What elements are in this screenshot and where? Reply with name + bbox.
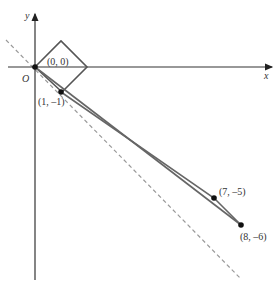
label-0-0: (0, 0) [47,56,69,68]
point-1-1 [58,89,64,95]
dashed-line [6,40,241,279]
label-8-6: (8, –6) [240,231,267,243]
label-7-5: (7, –5) [219,186,246,198]
point-7-5 [211,195,217,201]
x-axis-label: x [263,70,269,81]
label-1-1: (1, –1) [38,96,65,108]
point-8-6 [238,222,244,228]
point-origin [32,64,38,70]
y-axis-label: y [24,10,30,21]
coordinate-diagram: y x O (0, 0) (1, –1) (7, –5) (8, –6) [0,0,280,289]
origin-label: O [22,73,29,84]
